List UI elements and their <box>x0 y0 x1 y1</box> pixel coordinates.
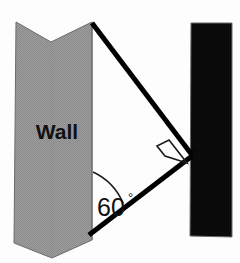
wall-label: Wall <box>36 120 78 143</box>
pole-shape <box>190 23 232 237</box>
degree-symbol-icon: ° <box>128 190 133 205</box>
geometry-diagram: Wall 60 ° <box>0 0 240 263</box>
diagram-canvas: Wall 60 ° <box>0 0 240 263</box>
pole-body <box>190 23 232 237</box>
angle-value-label: 60 <box>97 193 125 221</box>
